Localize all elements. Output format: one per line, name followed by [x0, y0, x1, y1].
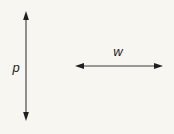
diagram-canvas: p w	[0, 0, 174, 134]
dimension-diagram: p w	[0, 0, 174, 134]
horizontal-dimension-label: w	[113, 44, 124, 59]
vertical-dimension-label: p	[11, 60, 19, 75]
